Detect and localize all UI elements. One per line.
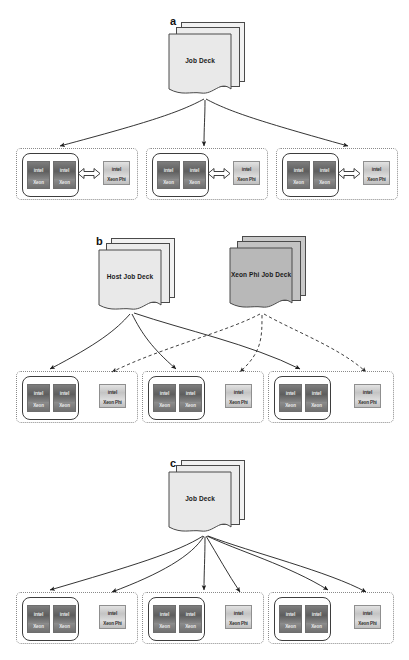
host-box: intel Xeon intel Xeon: [148, 597, 205, 641]
cpu-brand-label: intel: [312, 391, 321, 396]
phi-brand-label: intel: [234, 611, 243, 616]
xeon-phi-card: intel Xeon Phi: [233, 161, 260, 185]
panel-b-node-group-3: intel Xeon intel Xeon intel Xeon Phi: [268, 371, 394, 423]
host-box: intel Xeon intel Xeon: [22, 153, 79, 197]
panel-c-node-group-3: intel Xeon intel Xeon intel Xeon Phi: [268, 592, 394, 644]
cpu-brand-label: intel: [60, 391, 69, 396]
cpu-chip-xeon: intel Xeon: [305, 384, 328, 412]
panel-c-arrows: [50, 536, 366, 592]
cpu-family-label: Xeon: [311, 404, 322, 409]
cpu-chip-xeon: intel Xeon: [279, 384, 302, 412]
cpu-brand-label: intel: [34, 612, 43, 617]
cpu-family-label: Xeon: [185, 625, 196, 630]
cpu-family-label: Xeon: [163, 181, 174, 186]
cpu-family-label: Xeon: [33, 625, 44, 630]
cpu-chip-xeon: intel Xeon: [157, 161, 180, 189]
deck-sheet-front: [98, 249, 162, 313]
cpu-family-label: Xeon: [59, 404, 70, 409]
cpu-brand-label: intel: [286, 612, 295, 617]
phi-family-label: Xeon Phi: [367, 178, 385, 183]
deck-sheet-front: [229, 247, 293, 311]
cpu-brand-label: intel: [190, 168, 199, 173]
host-box: intel Xeon intel Xeon: [282, 153, 339, 197]
phi-family-label: Xeon Phi: [358, 401, 376, 406]
xeon-phi-card: intel Xeon Phi: [225, 605, 252, 629]
cpu-brand-label: intel: [60, 168, 69, 173]
deck-sheet-front: [168, 471, 232, 535]
xeon-phi-card: intel Xeon Phi: [354, 384, 381, 408]
host-box: intel Xeon intel Xeon: [274, 597, 331, 641]
panel-a-arrows: [60, 99, 348, 146]
panel-a-node-group-3: intel Xeon intel Xeon intel Xeon Phi: [276, 148, 398, 200]
phi-family-label: Xeon Phi: [358, 622, 376, 627]
cpu-chip-xeon: intel Xeon: [153, 605, 176, 633]
cpu-chip-xeon: intel Xeon: [27, 384, 50, 412]
cpu-family-label: Xeon: [33, 181, 44, 186]
cpu-family-label: Xeon: [159, 625, 170, 630]
host-box: intel Xeon intel Xeon: [22, 376, 79, 420]
panel-c-node-group-2: intel Xeon intel Xeon intel Xeon Phi: [142, 592, 264, 644]
panel-label-b: b: [96, 236, 103, 247]
cpu-brand-label: intel: [34, 168, 43, 173]
panel-b-node-group-2: intel Xeon intel Xeon intel Xeon Phi: [142, 371, 264, 423]
phi-brand-label: intel: [372, 167, 381, 172]
cpu-chip-xeon: intel Xeon: [27, 161, 50, 189]
cpu-family-label: Xeon: [293, 181, 304, 186]
phi-brand-label: intel: [108, 390, 117, 395]
phi-brand-label: intel: [242, 167, 251, 172]
cpu-brand-label: intel: [312, 612, 321, 617]
panel-a-node-group-1: intel Xeon intel Xeon intel Xeon Phi: [16, 148, 138, 200]
xeon-phi-card: intel Xeon Phi: [363, 161, 390, 185]
cpu-chip-xeon: intel Xeon: [53, 605, 76, 633]
panel-label-a: a: [170, 16, 176, 27]
cpu-chip-xeon: intel Xeon: [287, 161, 310, 189]
cpu-brand-label: intel: [160, 391, 169, 396]
host-box: intel Xeon intel Xeon: [152, 153, 209, 197]
cpu-family-label: Xeon: [319, 181, 330, 186]
xeon-phi-card: intel Xeon Phi: [103, 161, 130, 185]
cpu-chip-xeon: intel Xeon: [179, 384, 202, 412]
cpu-brand-label: intel: [286, 391, 295, 396]
phi-brand-label: intel: [363, 611, 372, 616]
figure-canvas: a Job Deck intel Xeon intel Xeon intel X…: [0, 0, 409, 660]
cpu-family-label: Xeon: [59, 181, 70, 186]
cpu-brand-label: intel: [34, 391, 43, 396]
cpu-family-label: Xeon: [33, 404, 44, 409]
panel-b-dashed-arrows: [112, 314, 366, 372]
cpu-family-label: Xeon: [311, 625, 322, 630]
panel-b-node-group-1: intel Xeon intel Xeon intel Xeon Phi: [16, 371, 138, 423]
cpu-brand-label: intel: [186, 612, 195, 617]
xeon-phi-card: intel Xeon Phi: [99, 384, 126, 408]
cpu-chip-xeon: intel Xeon: [279, 605, 302, 633]
phi-brand-label: intel: [363, 390, 372, 395]
xeon-phi-card: intel Xeon Phi: [99, 605, 126, 629]
phi-family-label: Xeon Phi: [103, 622, 121, 627]
phi-brand-label: intel: [234, 390, 243, 395]
cpu-chip-xeon: intel Xeon: [53, 161, 76, 189]
cpu-chip-xeon: intel Xeon: [27, 605, 50, 633]
cpu-family-label: Xeon: [185, 404, 196, 409]
panel-c-node-group-1: intel Xeon intel Xeon intel Xeon Phi: [16, 592, 138, 644]
cpu-brand-label: intel: [160, 612, 169, 617]
cpu-chip-xeon: intel Xeon: [313, 161, 336, 189]
cpu-family-label: Xeon: [285, 404, 296, 409]
host-box: intel Xeon intel Xeon: [148, 376, 205, 420]
host-box: intel Xeon intel Xeon: [22, 597, 79, 641]
cpu-chip-xeon: intel Xeon: [179, 605, 202, 633]
cpu-family-label: Xeon: [189, 181, 200, 186]
cpu-family-label: Xeon: [59, 625, 70, 630]
host-box: intel Xeon intel Xeon: [274, 376, 331, 420]
cpu-chip-xeon: intel Xeon: [183, 161, 206, 189]
phi-family-label: Xeon Phi: [103, 401, 121, 406]
cpu-family-label: Xeon: [285, 625, 296, 630]
phi-family-label: Xeon Phi: [229, 401, 247, 406]
cpu-brand-label: intel: [320, 168, 329, 173]
cpu-chip-xeon: intel Xeon: [53, 384, 76, 412]
panel-a-node-group-2: intel Xeon intel Xeon intel Xeon Phi: [146, 148, 268, 200]
panel-b-solid-arrows: [50, 313, 300, 369]
phi-brand-label: intel: [112, 167, 121, 172]
deck-sheet-front: [168, 33, 232, 97]
cpu-family-label: Xeon: [159, 404, 170, 409]
phi-family-label: Xeon Phi: [107, 178, 125, 183]
phi-family-label: Xeon Phi: [229, 622, 247, 627]
